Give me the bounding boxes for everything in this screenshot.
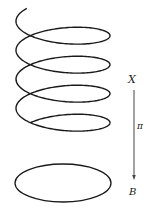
helix-curve: [16, 8, 110, 131]
base-circle: [15, 164, 111, 202]
label-projection: π: [137, 122, 143, 131]
label-total-space: X: [128, 74, 136, 85]
covering-space-diagram: [0, 0, 151, 214]
projection-arrow-head-icon: [132, 175, 136, 180]
label-base-space: B: [129, 187, 136, 197]
